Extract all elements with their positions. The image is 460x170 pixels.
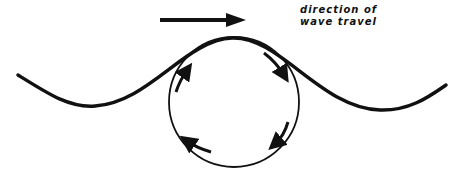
orbit-arrows — [176, 53, 288, 152]
direction-arrow-icon — [160, 13, 246, 27]
direction-label: direction of wave travel — [300, 4, 377, 28]
wave-line — [18, 38, 446, 110]
direction-label-line-2: wave travel — [300, 16, 377, 28]
orbit-arrow-icon — [176, 70, 187, 92]
wave-orbit-diagram — [0, 0, 460, 170]
direction-label-line-1: direction of — [300, 4, 377, 16]
orbit-circle — [169, 37, 299, 167]
